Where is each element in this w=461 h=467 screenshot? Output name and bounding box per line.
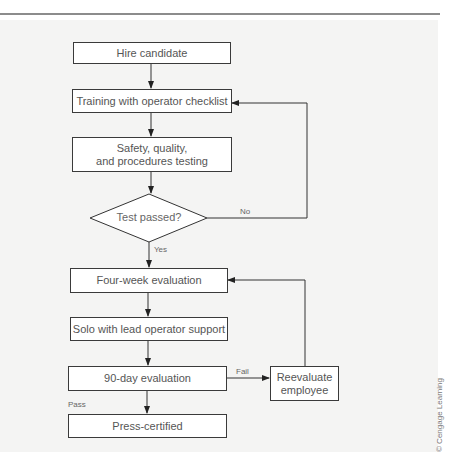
- node-label: Four-week evaluation: [96, 274, 201, 287]
- copyright-credit: © Cengage Learning: [435, 378, 444, 452]
- node-hire-candidate: Hire candidate: [73, 42, 231, 64]
- edge-label-no: No: [240, 207, 250, 216]
- node-label-line1: Safety, quality,: [117, 142, 188, 155]
- node-reevaluate-employee: Reevaluate employee: [270, 366, 339, 401]
- edge-label-yes: Yes: [154, 245, 167, 254]
- arrow-reevaluate-loop: [228, 280, 305, 366]
- node-label: Training with operator checklist: [76, 95, 227, 108]
- edge-label-pass: Pass: [68, 400, 86, 409]
- decision-label: Test passed?: [95, 211, 203, 223]
- node-90-day-evaluation: 90-day evaluation: [68, 366, 227, 391]
- node-label: Solo with lead operator support: [73, 323, 225, 336]
- node-four-week-evaluation: Four-week evaluation: [70, 268, 228, 293]
- node-press-certified: Press-certified: [68, 414, 227, 438]
- node-label-line2: employee: [281, 384, 329, 397]
- connector-layer: [0, 0, 461, 467]
- node-label: Hire candidate: [117, 47, 188, 60]
- edge-label-fail: Fail: [236, 367, 249, 376]
- node-testing: Safety, quality, and procedures testing: [72, 137, 232, 172]
- node-label: 90-day evaluation: [104, 372, 191, 385]
- node-training: Training with operator checklist: [72, 89, 232, 113]
- node-label-line2: and procedures testing: [96, 155, 208, 168]
- node-label: Press-certified: [112, 420, 182, 433]
- node-label-line1: Reevaluate: [277, 371, 333, 384]
- node-solo-support: Solo with lead operator support: [70, 317, 228, 341]
